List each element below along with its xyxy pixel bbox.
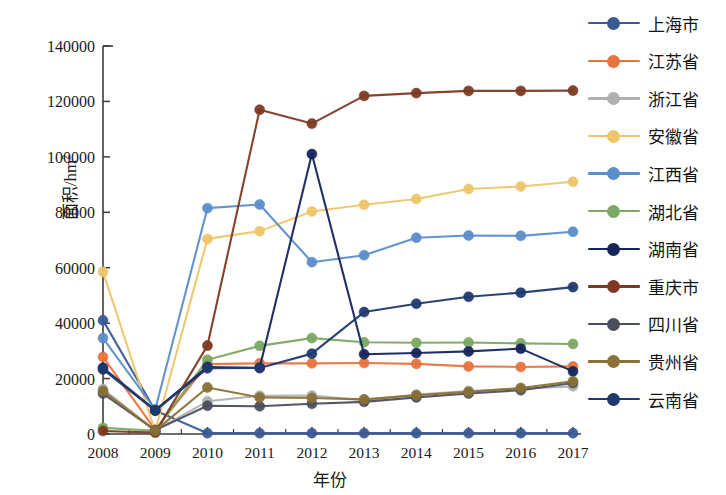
- x-tick-label: 2016: [505, 444, 536, 461]
- legend-label: 贵州省: [640, 349, 699, 374]
- legend-item[interactable]: 重庆市: [588, 275, 726, 297]
- y-tick-label: 60000: [55, 260, 95, 277]
- data-point: [150, 426, 160, 436]
- data-point: [516, 182, 526, 192]
- legend-swatch: [588, 279, 640, 293]
- data-point: [516, 383, 526, 393]
- x-tick-label: 2012: [296, 444, 327, 461]
- data-point: [98, 386, 108, 396]
- data-point: [516, 344, 526, 354]
- data-point: [307, 119, 317, 129]
- legend-label: 江苏省: [640, 48, 699, 73]
- data-point: [411, 348, 421, 358]
- data-point: [411, 359, 421, 369]
- legend-marker-icon: [607, 355, 620, 368]
- series-group: [98, 86, 578, 439]
- data-point: [255, 428, 265, 438]
- data-point: [411, 390, 421, 400]
- x-tick-label: 2008: [88, 444, 119, 461]
- data-point: [98, 426, 108, 436]
- data-point: [464, 338, 474, 348]
- data-point: [255, 363, 265, 373]
- data-point: [98, 352, 108, 362]
- legend-marker-icon: [607, 92, 620, 105]
- data-point: [307, 358, 317, 368]
- legend-swatch: [588, 204, 640, 218]
- data-point: [307, 206, 317, 216]
- data-point: [202, 382, 212, 392]
- legend-item[interactable]: 安徽省: [588, 125, 726, 147]
- legend-item[interactable]: 浙江省: [588, 87, 726, 109]
- chart-legend: 上海市江苏省浙江省安徽省江西省湖北省湖南省重庆市四川省贵州省云南省: [588, 4, 726, 434]
- data-point: [516, 86, 526, 96]
- y-tick-label: 0: [87, 426, 95, 443]
- data-point: [307, 149, 317, 159]
- data-point: [411, 88, 421, 98]
- y-axis-title-text: 面积/hm: [61, 160, 80, 220]
- legend-marker-icon: [607, 167, 620, 180]
- data-point: [464, 346, 474, 356]
- y-tick-label: 120000: [47, 93, 95, 110]
- data-point: [568, 227, 578, 237]
- x-tick-label: 2014: [401, 444, 432, 461]
- data-point: [411, 233, 421, 243]
- x-axis-title: 年份: [180, 466, 480, 491]
- legend-swatch: [588, 91, 640, 105]
- legend-label: 安徽省: [640, 123, 699, 148]
- data-point: [464, 86, 474, 96]
- legend-marker-icon: [607, 205, 620, 218]
- legend-marker-icon: [607, 130, 620, 143]
- series-line: [103, 91, 573, 433]
- data-point: [255, 105, 265, 115]
- y-tick-label: 20000: [55, 371, 95, 388]
- data-point: [516, 288, 526, 298]
- data-point: [359, 358, 369, 368]
- legend-item[interactable]: 湖北省: [588, 200, 726, 222]
- data-point: [202, 341, 212, 351]
- y-axis-title: 面积/hm2: [56, 118, 81, 258]
- legend-item[interactable]: 贵州省: [588, 350, 726, 372]
- data-point: [307, 428, 317, 438]
- legend-swatch: [588, 354, 640, 368]
- data-point: [202, 401, 212, 411]
- data-point: [359, 250, 369, 260]
- legend-marker-icon: [607, 55, 620, 68]
- x-tick-label: 2011: [244, 444, 274, 461]
- legend-item[interactable]: 江苏省: [588, 50, 726, 72]
- legend-marker-icon: [607, 393, 620, 406]
- data-point: [359, 349, 369, 359]
- legend-marker-icon: [607, 318, 620, 331]
- data-point: [255, 401, 265, 411]
- data-point: [202, 428, 212, 438]
- series-line: [103, 205, 573, 410]
- legend-label: 江西省: [640, 161, 699, 186]
- data-point: [98, 333, 108, 343]
- legend-swatch: [588, 16, 640, 30]
- legend-swatch: [588, 129, 640, 143]
- legend-item[interactable]: 江西省: [588, 162, 726, 184]
- legend-item[interactable]: 上海市: [588, 12, 726, 34]
- data-point: [411, 338, 421, 348]
- data-point: [464, 361, 474, 371]
- data-point: [568, 177, 578, 187]
- data-point: [359, 91, 369, 101]
- legend-item[interactable]: 云南省: [588, 388, 726, 410]
- legend-swatch: [588, 392, 640, 406]
- data-point: [464, 184, 474, 194]
- data-point: [516, 362, 526, 372]
- data-point: [202, 363, 212, 373]
- legend-item[interactable]: 湖南省: [588, 238, 726, 260]
- legend-label: 湖北省: [640, 199, 699, 224]
- y-axis-title-exponent: 2: [60, 155, 71, 160]
- data-point: [307, 333, 317, 343]
- data-point: [307, 393, 317, 403]
- data-point: [202, 203, 212, 213]
- data-point: [255, 200, 265, 210]
- legend-item[interactable]: 四川省: [588, 313, 726, 335]
- x-tick-label: 2013: [349, 444, 380, 461]
- x-tick-label: 2015: [453, 444, 484, 461]
- legend-swatch: [588, 242, 640, 256]
- series-line: [103, 154, 573, 410]
- data-point: [568, 366, 578, 376]
- x-tick-label: 2017: [558, 444, 589, 461]
